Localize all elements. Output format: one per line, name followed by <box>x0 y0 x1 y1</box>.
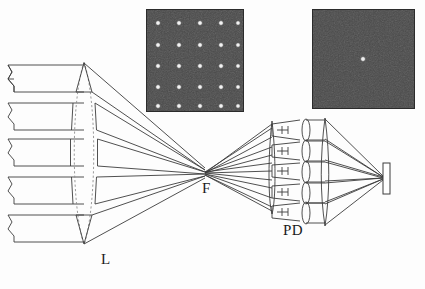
objective-lens-outline <box>74 62 94 245</box>
final-converging-rays <box>325 119 383 225</box>
converging-rays <box>84 63 205 244</box>
incoming-beam-1 <box>8 65 84 92</box>
pd-channel-2 <box>272 142 300 160</box>
incoming-beam-5 <box>8 215 84 242</box>
microlens-array <box>302 119 310 224</box>
label-lens-L: L <box>101 251 110 268</box>
figure-canvas: L F PD <box>0 0 425 289</box>
pd-channel-5 <box>272 203 300 221</box>
diverging-rays-to-pd <box>205 124 272 211</box>
incoming-beam-3 <box>8 139 84 166</box>
field-lens <box>321 118 329 226</box>
label-photodetector-PD: PD <box>283 222 303 239</box>
relay-bands <box>306 120 325 223</box>
pd-channel-4 <box>272 184 300 201</box>
pd-channel-1 <box>272 120 300 140</box>
label-focus-F: F <box>202 180 210 197</box>
pd-channel-3 <box>272 163 300 180</box>
ray-diagram <box>0 0 425 289</box>
objective-lens-segments <box>71 63 98 244</box>
screen-detector-bar <box>383 163 390 194</box>
